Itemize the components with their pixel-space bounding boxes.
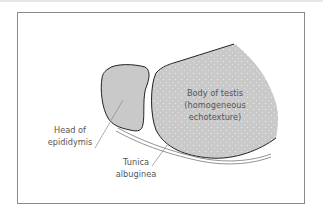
diagram-svg: Body of testis (homogeneous echotexture)… <box>0 0 323 220</box>
tunica-label-line2: albuginea <box>116 169 156 179</box>
tunica-leader-line <box>152 144 168 166</box>
body-label-line2: (homogeneous <box>184 100 245 110</box>
body-label-line3: echotexture) <box>189 112 242 122</box>
head-label-line2: epididymis <box>48 137 93 147</box>
tunica-label-line1: Tunica <box>122 157 149 167</box>
epididymis-head-shape <box>101 65 149 131</box>
body-label-line1: Body of testis <box>187 88 243 98</box>
head-label-line1: Head of <box>54 125 87 135</box>
